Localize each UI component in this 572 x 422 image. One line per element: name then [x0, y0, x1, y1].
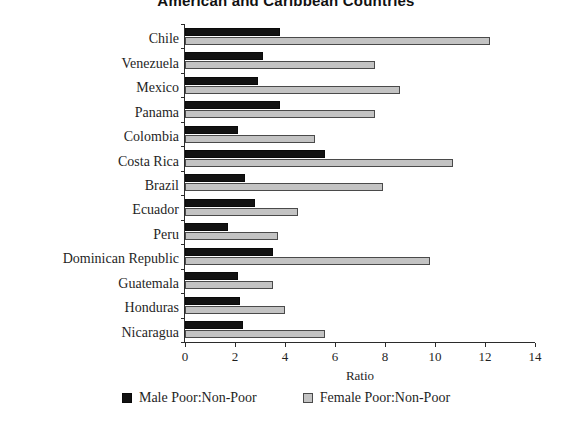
bar-female	[185, 257, 430, 265]
bar-row: Guatemala	[185, 269, 535, 293]
bar-male	[185, 52, 263, 60]
bar-female	[185, 208, 298, 216]
category-label: Colombia	[124, 130, 179, 144]
bar-male	[185, 297, 240, 305]
chart-legend: Male Poor:Non-Poor Female Poor:Non-Poor	[0, 390, 572, 406]
category-label: Guatemala	[118, 277, 179, 291]
category-label: Chile	[149, 32, 179, 46]
category-label: Venezuela	[121, 57, 179, 71]
x-tick-label: 2	[232, 349, 239, 365]
bar-row: Venezuela	[185, 48, 535, 72]
bar-female	[185, 281, 273, 289]
male-swatch-icon	[122, 393, 132, 403]
female-swatch-icon	[303, 393, 313, 403]
plot-area: 02468101214 ChileVenezuelaMexicoPanamaCo…	[185, 24, 535, 342]
x-tick-label: 6	[332, 349, 339, 365]
bar-male	[185, 126, 238, 134]
bar-female	[185, 110, 375, 118]
category-label: Brazil	[145, 179, 179, 193]
bar-female	[185, 86, 400, 94]
category-label: Panama	[135, 106, 179, 120]
category-label: Honduras	[125, 301, 179, 315]
bar-row: Nicaragua	[185, 318, 535, 342]
bar-row: Mexico	[185, 73, 535, 97]
bar-row: Costa Rica	[185, 146, 535, 170]
bar-male	[185, 174, 245, 182]
legend-label-male: Male Poor:Non-Poor	[139, 390, 257, 406]
x-axis-title: Ratio	[185, 368, 535, 384]
category-label: Nicaragua	[121, 326, 179, 340]
bar-female	[185, 232, 278, 240]
bar-male	[185, 77, 258, 85]
x-tick-label: 10	[429, 349, 442, 365]
x-axis-line	[184, 342, 535, 343]
bar-male	[185, 150, 325, 158]
bar-female	[185, 61, 375, 69]
bar-male	[185, 101, 280, 109]
category-label: Ecuador	[132, 203, 179, 217]
category-label: Peru	[153, 228, 179, 242]
category-label: Costa Rica	[118, 155, 179, 169]
x-tick	[535, 343, 536, 347]
x-tick-label: 14	[529, 349, 542, 365]
bar-row: Ecuador	[185, 195, 535, 219]
bar-row: Panama	[185, 97, 535, 121]
x-tick-label: 12	[479, 349, 492, 365]
bar-chart: American and Caribbean Countries 0246810…	[0, 0, 572, 422]
x-tick	[485, 343, 486, 347]
bar-female	[185, 306, 285, 314]
legend-item-female: Female Poor:Non-Poor	[303, 390, 450, 406]
x-tick	[335, 343, 336, 347]
x-tick	[185, 343, 186, 347]
bar-male	[185, 28, 280, 36]
bar-female	[185, 330, 325, 338]
bar-row: Honduras	[185, 293, 535, 317]
bar-row: Brazil	[185, 171, 535, 195]
bar-female	[185, 37, 490, 45]
category-label: Dominican Republic	[63, 252, 179, 266]
bar-row: Chile	[185, 24, 535, 48]
bar-male	[185, 223, 228, 231]
x-tick-label: 8	[382, 349, 389, 365]
legend-item-male: Male Poor:Non-Poor	[122, 390, 257, 406]
bar-male	[185, 321, 243, 329]
bar-male	[185, 199, 255, 207]
x-tick	[285, 343, 286, 347]
bar-female	[185, 135, 315, 143]
legend-label-female: Female Poor:Non-Poor	[320, 390, 450, 406]
bar-row: Colombia	[185, 122, 535, 146]
x-tick	[235, 343, 236, 347]
bar-female	[185, 159, 453, 167]
bar-female	[185, 183, 383, 191]
x-tick-label: 0	[182, 349, 189, 365]
bar-row: Dominican Republic	[185, 244, 535, 268]
bar-male	[185, 272, 238, 280]
bar-row: Peru	[185, 220, 535, 244]
bar-male	[185, 248, 273, 256]
y-tick	[181, 342, 185, 343]
x-tick-label: 4	[282, 349, 289, 365]
x-tick	[385, 343, 386, 347]
x-tick	[435, 343, 436, 347]
category-label: Mexico	[136, 81, 179, 95]
chart-title: American and Caribbean Countries	[0, 0, 572, 10]
